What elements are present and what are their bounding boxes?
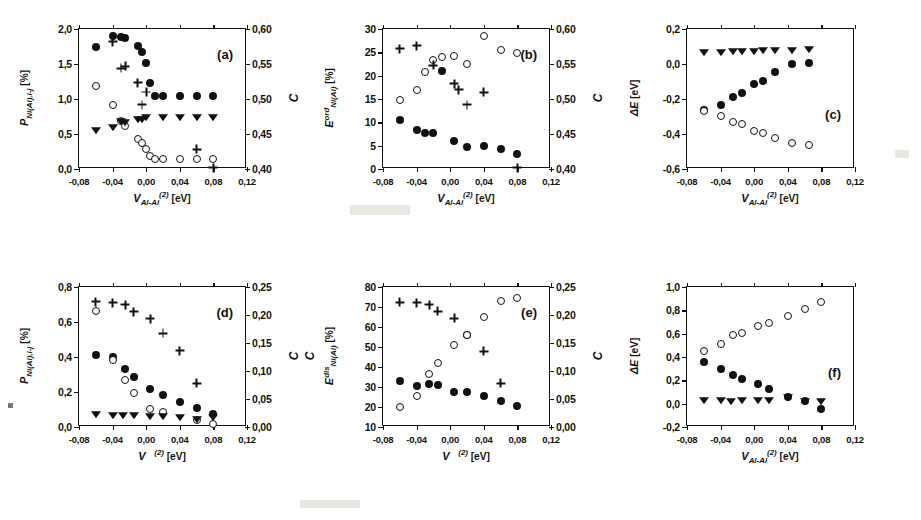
data-point-e-filled-circle xyxy=(497,397,505,405)
data-point-e-open-circle xyxy=(450,341,458,349)
panel-e: -0,08-0,040,000,040,080,1210203040506070… xyxy=(304,258,611,513)
data-point-b-plus xyxy=(395,44,404,53)
data-point-f-filled-triangle-down xyxy=(800,399,810,406)
x-tick-d-0 xyxy=(79,425,80,430)
panel-tag-e: (e) xyxy=(521,305,537,320)
x-tick-label-a-5: 0,12 xyxy=(238,176,256,187)
data-point-f-filled-circle xyxy=(717,365,725,373)
data-point-b-plus xyxy=(429,61,438,70)
data-point-c-open-circle xyxy=(729,118,737,126)
data-point-a-filled-circle xyxy=(146,79,154,87)
data-point-f-filled-circle xyxy=(700,358,708,366)
data-point-f-filled-circle xyxy=(817,405,825,413)
y-tick-e-4 xyxy=(378,347,383,348)
x-tick-c-0 xyxy=(687,167,688,172)
panel-c: -0,08-0,040,000,040,080,12-0,6-0,4-0,20,… xyxy=(608,0,915,255)
data-point-e-filled-circle xyxy=(413,382,421,390)
data-point-f-filled-circle xyxy=(738,375,746,383)
data-point-c-filled-circle xyxy=(805,59,813,67)
data-point-b-open-circle xyxy=(413,86,421,94)
data-point-c-open-circle xyxy=(750,127,758,135)
data-point-c-filled-triangle-down xyxy=(804,46,814,53)
x-tick-f-0 xyxy=(687,283,688,287)
data-point-c-filled-triangle-down xyxy=(758,48,768,55)
data-point-d-filled-circle xyxy=(159,391,167,399)
data-point-e-filled-circle xyxy=(513,402,521,410)
plot-area-c: -0,08-0,040,000,040,080,12-0,6-0,4-0,20,… xyxy=(686,28,854,168)
x-tick-label-b-3: 0,04 xyxy=(475,176,493,187)
y2-tick-a-3 xyxy=(245,64,250,65)
data-point-b-open-circle xyxy=(497,46,505,54)
x-tick-a-3 xyxy=(180,167,181,172)
y-axis-title-extra-e: C xyxy=(303,352,317,361)
x-tick-label-f-1: -0,04 xyxy=(710,434,731,445)
data-point-e-filled-circle xyxy=(425,380,433,388)
data-point-e-plus xyxy=(450,314,459,323)
y-tick-label-e-3: 40 xyxy=(365,361,376,373)
plot-area-d: -0,08-0,040,000,040,080,120,00,20,40,60,… xyxy=(78,286,246,426)
data-point-d-filled-circle xyxy=(92,351,100,359)
y2-tick-d-2 xyxy=(245,371,250,372)
panel-d: -0,08-0,040,000,040,080,120,00,20,40,60,… xyxy=(0,258,307,513)
x-tick-label-e-1: -0,04 xyxy=(406,434,427,445)
data-point-b-filled-circle xyxy=(463,143,471,151)
x-tick-f-5 xyxy=(855,283,856,287)
data-point-b-open-circle xyxy=(463,60,471,68)
y-tick-e-5 xyxy=(378,327,383,328)
data-point-a-open-circle xyxy=(151,155,159,163)
data-point-a-filled-triangle-down xyxy=(192,114,202,121)
x-tick-a-2 xyxy=(146,25,147,29)
y-axis-title-b: EordNi(Al) [%] xyxy=(322,68,339,128)
x-axis-title-e: V (2) [eV] xyxy=(382,448,550,465)
data-point-a-filled-triangle-down xyxy=(120,119,130,126)
x-axis-title-f: VAl-Al(2) [eV] xyxy=(686,448,854,465)
data-point-a-filled-triangle-down xyxy=(208,114,218,121)
x-tick-label-b-2: 0,00 xyxy=(441,176,459,187)
y2-tick-label-e-4: 0,20 xyxy=(556,309,576,321)
x-tick-label-e-2: 0,00 xyxy=(441,434,459,445)
y2-tick-label-a-4: 0,60 xyxy=(252,23,272,35)
y-axis-title-e: EdisNi(Al) [%] xyxy=(322,327,339,385)
data-point-b-filled-circle xyxy=(429,129,437,137)
data-point-a-open-circle xyxy=(193,155,201,163)
y2-tick-label-a-2: 0,50 xyxy=(252,93,272,105)
y-tick-label-e-0: 10 xyxy=(365,421,376,433)
y2-tick-label-e-5: 0,25 xyxy=(556,281,576,293)
y2-tick-label-b-3: 0,55 xyxy=(556,58,576,70)
y-tick-b-2 xyxy=(378,122,383,123)
x-tick-b-2 xyxy=(450,167,451,172)
x-tick-c-3 xyxy=(788,25,789,29)
y2-axis-title-a: C xyxy=(287,94,301,103)
x-tick-label-c-5: 0,12 xyxy=(846,176,864,187)
data-point-d-filled-triangle-down xyxy=(145,413,155,420)
x-tick-b-0 xyxy=(383,25,384,29)
x-tick-b-1 xyxy=(417,167,418,172)
x-tick-label-e-5: 0,12 xyxy=(542,434,560,445)
data-point-a-plus xyxy=(209,163,218,172)
x-tick-f-3 xyxy=(788,425,789,430)
data-point-e-plus xyxy=(479,347,488,356)
data-point-e-open-circle xyxy=(413,392,421,400)
y-tick-a-4 xyxy=(74,29,79,30)
y-tick-b-3 xyxy=(378,99,383,100)
data-point-c-filled-triangle-down xyxy=(716,49,726,56)
x-tick-a-1 xyxy=(113,25,114,29)
data-point-f-filled-triangle-down xyxy=(737,398,747,405)
x-tick-a-3 xyxy=(180,25,181,29)
y2-tick-label-e-3: 0,15 xyxy=(556,337,576,349)
y2-tick-b-0 xyxy=(549,169,554,170)
x-tick-e-2 xyxy=(450,283,451,287)
data-point-c-filled-circle xyxy=(759,77,767,85)
x-tick-label-b-5: 0,12 xyxy=(542,176,560,187)
data-point-b-plus xyxy=(463,100,472,109)
y-tick-label-d-3: 0,6 xyxy=(58,316,72,328)
y-tick-e-3 xyxy=(378,367,383,368)
data-point-a-filled-triangle-down xyxy=(108,124,118,131)
data-point-a-plus xyxy=(142,88,151,97)
y2-tick-label-e-1: 0,05 xyxy=(556,393,576,405)
data-point-e-open-circle xyxy=(463,331,471,339)
y-tick-label-f-1: 0,0 xyxy=(666,398,680,410)
data-point-a-filled-triangle-down xyxy=(91,127,101,134)
x-tick-label-b-4: 0,08 xyxy=(509,176,527,187)
y2-tick-label-a-3: 0,55 xyxy=(252,58,272,70)
